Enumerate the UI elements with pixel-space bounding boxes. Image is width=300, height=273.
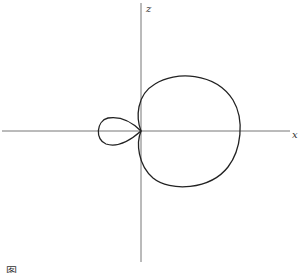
polar-pattern-diagram: z x: [0, 0, 300, 273]
x-axis-label: x: [292, 129, 298, 140]
z-axis-label: z: [145, 3, 152, 14]
figure-caption: 图: [6, 266, 17, 273]
